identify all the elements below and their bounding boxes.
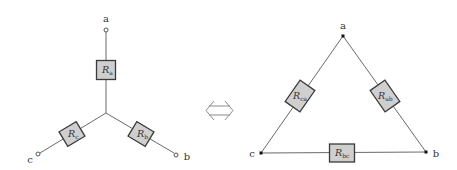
wye-resistor-b: Rb: [128, 121, 154, 146]
wye-terminal-c: [36, 152, 40, 156]
delta-terminal-a: [342, 35, 345, 38]
delta-node-label-a: a: [340, 20, 346, 31]
delta-network: a c b Rca Rab Rbc: [249, 20, 439, 162]
wye-node-label-b: b: [184, 151, 190, 162]
wye-node-label-c: c: [27, 154, 33, 165]
wye-terminal-b: [174, 153, 178, 157]
delta-resistor-ab: Rab: [369, 80, 400, 113]
delta-resistor-bc: Rbc: [330, 144, 355, 162]
equivalence-arrow-icon: [206, 101, 233, 120]
delta-terminal-b: [425, 151, 428, 154]
wye-resistor-a: Ra: [97, 61, 116, 80]
wye-resistor-c: Rc: [59, 122, 85, 147]
wye-node-label-a: a: [103, 13, 109, 24]
delta-node-label-b: b: [433, 148, 439, 159]
delta-terminal-c: [260, 152, 263, 155]
wye-delta-diagram: a c b Ra Rc Rb: [0, 0, 457, 170]
wye-network: a c b Ra Rc Rb: [27, 13, 190, 165]
delta-resistor-ca: Rca: [284, 80, 315, 113]
delta-node-label-c: c: [249, 148, 255, 159]
wye-terminal-a: [104, 28, 108, 32]
